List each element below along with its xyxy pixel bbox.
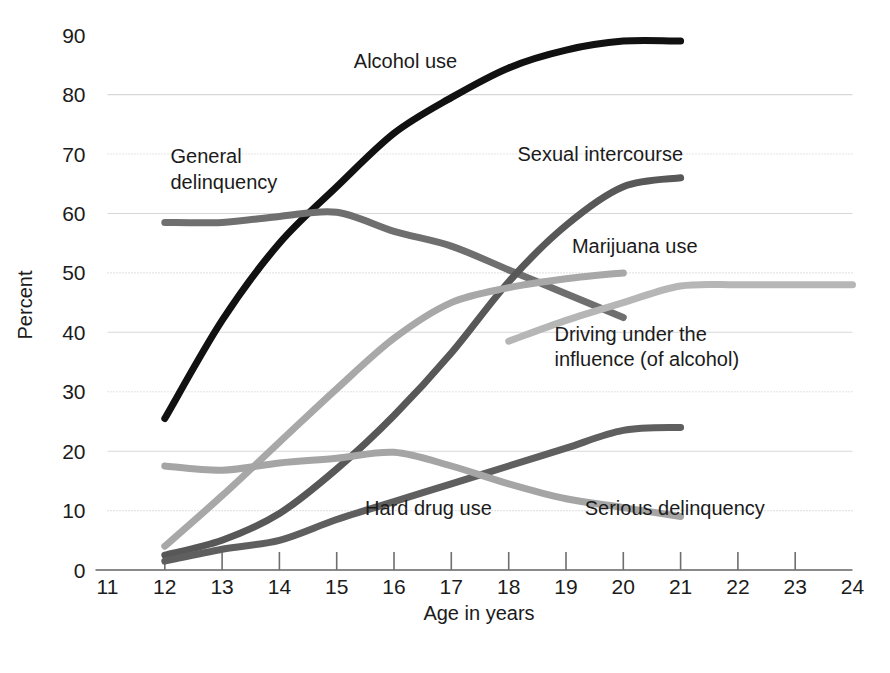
y-tick-label-50: 50: [62, 261, 85, 284]
y-tick-label-20: 20: [62, 440, 85, 463]
x-tick-label-11: 11: [97, 575, 119, 598]
x-tick-label-18: 18: [497, 575, 520, 598]
x-tick-label-15: 15: [325, 575, 348, 598]
series-lines: [165, 40, 853, 561]
y-tick-label-60: 60: [62, 202, 85, 225]
annotation-serious-delinquency: Serious delinquency: [585, 497, 765, 519]
y-axis-title: Percent: [14, 270, 36, 339]
series-line-hard-drug-use: [165, 427, 681, 561]
y-tick-label-40: 40: [62, 321, 85, 344]
annotation-influence-of-alcohol: influence (of alcohol): [555, 348, 740, 370]
annotation-sexual-intercourse: Sexual intercourse: [517, 143, 683, 165]
annotation-general: General: [171, 145, 242, 167]
y-tick-label-90: 90: [62, 24, 85, 47]
y-tick-label-0: 0: [74, 559, 86, 582]
annotation-alcohol-use: Alcohol use: [354, 50, 457, 72]
x-tick-label-24: 24: [841, 575, 865, 598]
annotation-hard-drug-use: Hard drug use: [365, 497, 492, 519]
tick-marks: [165, 552, 795, 570]
annotation-marijuana-use: Marijuana use: [572, 235, 698, 257]
annotation-delinquency: delinquency: [171, 171, 278, 193]
x-axis-title: Age in years: [423, 602, 534, 624]
x-tick-label-16: 16: [382, 575, 405, 598]
y-tick-label-30: 30: [62, 380, 85, 403]
line-chart-canvas: 0102030405060708090 11121314151617181920…: [0, 0, 890, 673]
x-tick-label-21: 21: [669, 575, 692, 598]
y-tick-label-10: 10: [62, 499, 85, 522]
x-tick-label-20: 20: [612, 575, 635, 598]
x-tick-label-22: 22: [726, 575, 749, 598]
x-tick-label-14: 14: [268, 575, 292, 598]
x-tick-label-17: 17: [440, 575, 463, 598]
chart-figure: 0102030405060708090 11121314151617181920…: [0, 0, 890, 673]
y-axis-tick-labels: 0102030405060708090: [62, 24, 85, 582]
annotation-driving-under-the: Driving under the: [555, 323, 707, 345]
x-tick-label-23: 23: [784, 575, 807, 598]
y-tick-label-80: 80: [62, 83, 85, 106]
x-tick-label-19: 19: [554, 575, 577, 598]
x-tick-label-12: 12: [153, 575, 176, 598]
x-tick-label-13: 13: [210, 575, 233, 598]
y-tick-label-70: 70: [62, 143, 85, 166]
x-axis-tick-labels: 1112131415161718192021222324: [97, 575, 865, 598]
